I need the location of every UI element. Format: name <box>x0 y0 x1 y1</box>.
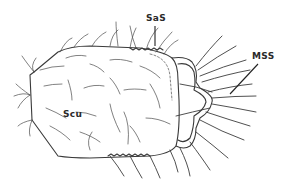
scutum-surface-setae <box>40 55 170 150</box>
scutum-illustration: SaS MSS Scu <box>0 0 288 194</box>
anterior-setae <box>14 56 36 136</box>
mss-leader-line <box>230 64 258 94</box>
label-scu: Scu <box>63 110 82 119</box>
inner-boundary <box>150 54 172 100</box>
dorsal-setae-top <box>60 22 178 54</box>
lower-serration <box>108 154 150 156</box>
label-sas: SaS <box>146 14 166 23</box>
scutum-outline <box>30 46 179 158</box>
label-mss: MSS <box>252 52 274 61</box>
scutum-drawing <box>0 0 288 194</box>
